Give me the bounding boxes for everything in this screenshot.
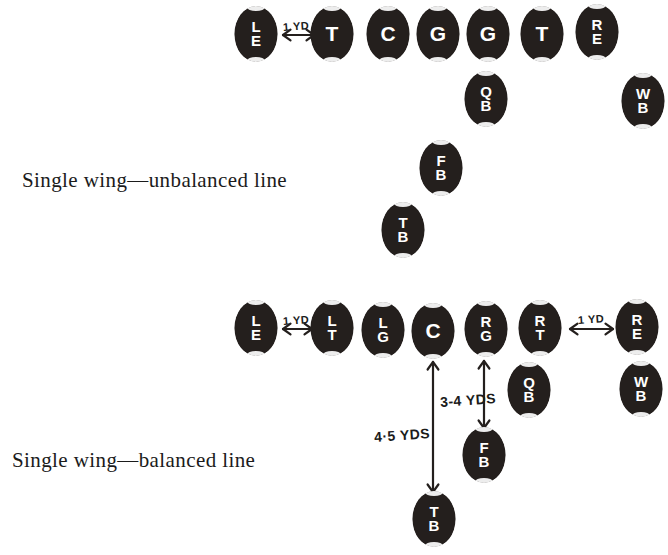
player-position-label: RE	[632, 313, 643, 341]
player-position-label: FB	[479, 441, 490, 469]
player-position-label: C	[425, 321, 440, 340]
player-position-label: RT	[535, 314, 546, 342]
player-position-label: T	[536, 24, 549, 43]
player-marker-center[interactable]: C	[411, 303, 455, 359]
formation-caption-single-wing-balanced: Single wing—balanced line	[12, 448, 255, 473]
player-label-char: E	[251, 34, 261, 48]
player-label-char: E	[251, 328, 261, 342]
player-label-char: B	[481, 99, 492, 113]
player-position-label: LE	[251, 314, 261, 342]
player-marker-fullback[interactable]: FB	[419, 140, 463, 196]
measurement-label-le-to-t-gap: 1 YD	[283, 19, 310, 33]
player-position-label: C	[380, 24, 395, 43]
player-marker-right-guard[interactable]: RG	[464, 301, 508, 357]
player-position-label: WB	[636, 87, 650, 115]
player-label-char: T	[535, 328, 544, 342]
player-position-label: QB	[480, 85, 492, 113]
player-position-label: WB	[634, 375, 648, 403]
player-marker-wingback[interactable]: WB	[621, 73, 665, 129]
player-marker-center[interactable]: C	[366, 6, 410, 62]
player-label-char: G	[480, 329, 492, 343]
player-label-char: B	[479, 455, 490, 469]
player-marker-left-guard[interactable]: LG	[361, 302, 405, 358]
player-marker-right-end[interactable]: RE	[615, 299, 659, 355]
player-marker-left-tackle[interactable]: LT	[310, 300, 354, 356]
player-position-label: LG	[377, 316, 389, 344]
player-marker-fullback[interactable]: FB	[462, 427, 506, 483]
player-position-label: QB	[523, 376, 535, 404]
player-position-label: RE	[592, 18, 603, 46]
player-marker-tailback[interactable]: TB	[412, 491, 456, 547]
measurement-label-le-to-lt-gap: 1 YD	[283, 313, 310, 327]
player-position-label: G	[430, 24, 446, 43]
formation-caption-single-wing-unbalanced: Single wing—unbalanced line	[22, 168, 287, 193]
player-marker-tackle-2[interactable]: T	[520, 6, 564, 62]
player-position-label: TB	[398, 216, 409, 244]
formations-diagram: Single wing—unbalanced line1 YDLETCGGTRE…	[0, 0, 668, 555]
player-position-label: TB	[429, 505, 440, 533]
player-label-char: G	[377, 330, 389, 344]
player-label-char: E	[632, 327, 642, 341]
player-marker-left-end[interactable]: LE	[234, 300, 278, 356]
player-marker-tailback[interactable]: TB	[381, 202, 425, 258]
player-label-char: B	[636, 389, 647, 403]
player-position-label: LE	[251, 20, 261, 48]
player-label-char: B	[524, 390, 535, 404]
player-marker-quarterback[interactable]: QB	[464, 71, 508, 127]
player-label-char: B	[429, 519, 440, 533]
player-marker-wingback[interactable]: WB	[619, 361, 663, 417]
player-marker-guard-2[interactable]: G	[466, 6, 510, 62]
player-position-label: G	[480, 24, 496, 43]
player-label-char: B	[398, 230, 409, 244]
player-marker-right-tackle[interactable]: RT	[518, 300, 562, 356]
player-label-char: E	[592, 32, 602, 46]
player-label-char: B	[436, 168, 447, 182]
player-marker-quarterback[interactable]: QB	[507, 362, 551, 418]
player-label-char: B	[638, 101, 649, 115]
measurement-label-rt-to-re-gap: 1 YD	[578, 312, 605, 326]
player-position-label: RG	[480, 315, 492, 343]
player-marker-left-end[interactable]: LE	[234, 6, 278, 62]
player-marker-tackle-1[interactable]: T	[310, 6, 354, 62]
player-label-char: T	[327, 328, 336, 342]
player-position-label: T	[326, 24, 339, 43]
player-marker-guard-1[interactable]: G	[416, 6, 460, 62]
player-position-label: LT	[327, 314, 336, 342]
player-position-label: FB	[436, 154, 447, 182]
player-marker-right-end[interactable]: RE	[575, 4, 619, 60]
